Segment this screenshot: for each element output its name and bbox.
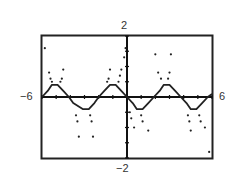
plot-point bbox=[44, 47, 46, 49]
plot-point bbox=[49, 78, 51, 80]
plot-point bbox=[141, 120, 143, 122]
plot-point bbox=[170, 53, 172, 55]
plot-area bbox=[0, 0, 241, 178]
plot-point bbox=[89, 114, 91, 116]
plot-point bbox=[154, 53, 156, 55]
plot-point bbox=[200, 120, 202, 122]
plot-point bbox=[123, 56, 125, 58]
plot-point bbox=[190, 129, 192, 131]
plot-point bbox=[188, 120, 190, 122]
plot-point bbox=[198, 114, 200, 116]
plot-point bbox=[160, 78, 162, 80]
plot-point bbox=[59, 81, 61, 83]
plot-point bbox=[90, 120, 92, 122]
plot-point bbox=[61, 78, 63, 80]
plot-point bbox=[75, 114, 77, 116]
plot-point bbox=[92, 136, 94, 138]
plot-point bbox=[208, 151, 210, 153]
plot-point bbox=[140, 114, 142, 116]
plot-point bbox=[48, 72, 50, 74]
plot-point bbox=[76, 120, 78, 122]
plot-point bbox=[157, 72, 159, 74]
plot-point bbox=[106, 81, 108, 83]
plot-point bbox=[78, 136, 80, 138]
plot-point bbox=[117, 81, 119, 83]
plot-point bbox=[129, 111, 131, 113]
plot-point bbox=[119, 75, 121, 77]
plot-point bbox=[204, 126, 206, 128]
plot-point bbox=[124, 47, 126, 49]
plot-point bbox=[167, 78, 169, 80]
plot-point bbox=[133, 126, 135, 128]
plot-point bbox=[168, 72, 170, 74]
plot-point bbox=[147, 129, 149, 131]
plot-point bbox=[62, 68, 64, 70]
plot-point bbox=[107, 78, 109, 80]
plot-point bbox=[109, 68, 111, 70]
plot-point bbox=[51, 81, 53, 83]
plot-point bbox=[120, 68, 122, 70]
plot-point bbox=[187, 114, 189, 116]
plot-point bbox=[130, 117, 132, 119]
